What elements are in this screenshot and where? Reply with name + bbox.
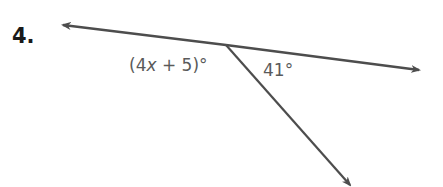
angle-left-rest: + 5)° (157, 55, 208, 75)
angle-left-variable: x (146, 55, 156, 75)
angle-label-left: (4x + 5)° (129, 55, 208, 75)
angle-label-right: 41° (263, 60, 293, 80)
line-left-segment (63, 25, 226, 45)
angle-left-open: (4 (129, 55, 146, 75)
angle-figure (0, 0, 443, 187)
line-right-segment (226, 45, 419, 70)
